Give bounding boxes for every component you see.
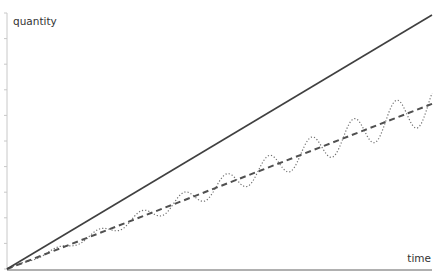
y-axis-label: quantity (13, 15, 57, 27)
chart: quantity time (0, 0, 438, 280)
x-axis-label: time (407, 252, 431, 264)
series-linear-solid (7, 15, 432, 269)
series-trend-dashed (7, 104, 432, 269)
series-oscillating-dotted (7, 93, 432, 269)
